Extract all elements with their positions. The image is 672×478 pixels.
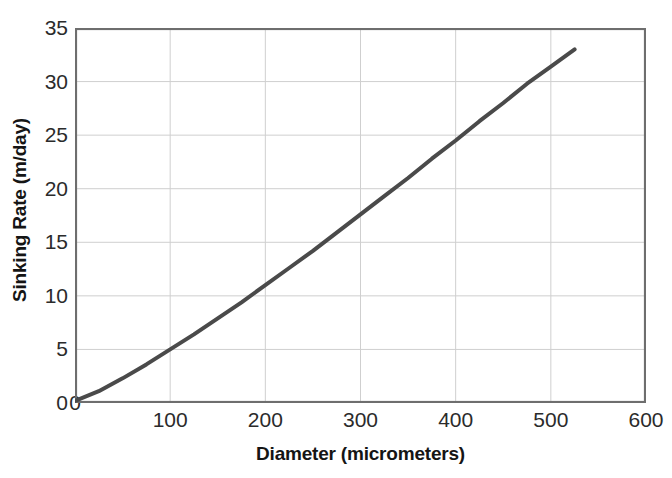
x-tick-label: 200 [225,409,305,430]
x-tick-label: 500 [511,409,591,430]
x-tick-label: 600 [606,409,672,430]
chart-figure: Sinking Rate (m/day) 05101520253035 0100… [0,0,672,478]
x-tick-label: 400 [416,409,496,430]
series-line [75,49,575,400]
plot-area [75,28,646,403]
x-tick-label: 300 [321,409,401,430]
data-series [75,49,575,400]
x-axis-title: Diameter (micrometers) [75,443,646,465]
plot-svg [75,28,646,403]
x-tick-label: 100 [130,409,210,430]
